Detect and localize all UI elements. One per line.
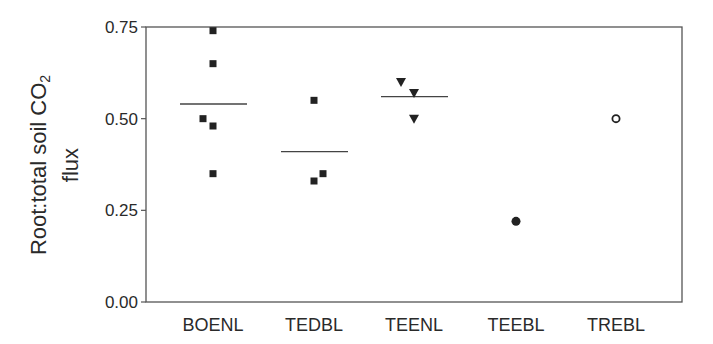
triangle-marker [409,115,419,124]
x-tick-label: TEDBL [285,315,343,335]
x-tick-label: TEENL [385,315,443,335]
triangle-marker [396,78,406,87]
circle-open-marker [612,115,619,122]
square-marker [311,97,318,104]
mean-lines [180,97,448,152]
x-tick-label: TEEBL [487,315,544,335]
square-marker [210,60,217,67]
plot-border [146,27,682,302]
x-tick-label: TREBL [587,315,645,335]
square-marker [200,115,207,122]
y-tick-label: 0.25 [105,201,138,220]
circle-filled-marker [512,217,521,226]
plot-frame [146,27,682,302]
y-tick-label: 0.50 [105,110,138,129]
square-marker [320,170,327,177]
y-tick-label: 0.75 [105,18,138,37]
square-marker [311,178,318,185]
data-points [200,27,620,226]
square-marker [210,170,217,177]
y-tick-label: 0.00 [105,293,138,312]
square-marker [210,27,217,34]
y-axis: 0.000.250.500.75 [105,18,146,312]
x-axis: BOENLTEDBLTEENLTEEBLTREBL [182,315,645,335]
scatter-plot: 0.000.250.500.75 BOENLTEDBLTEENLTEEBLTRE… [0,0,713,344]
x-tick-label: BOENL [182,315,243,335]
square-marker [210,123,217,130]
